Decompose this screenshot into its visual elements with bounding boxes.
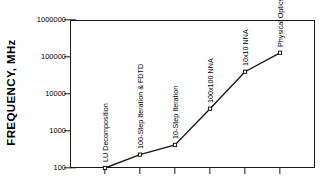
data-point-label: 100-Step Iteration & FDTD [137, 64, 144, 149]
data-point-label: 10-Step Iteration [172, 86, 179, 139]
y-tick-label: 10000 [45, 90, 66, 98]
data-point-label: 100x100 NNA [207, 58, 214, 103]
y-tick-label: 1000000 [37, 16, 66, 24]
frequency-chart-figure: FREQUENCY, MHz 1000000100000100001000100… [0, 0, 333, 185]
data-point-label: LU Decomposition [102, 103, 109, 162]
data-point-label: 10x10 NNA [242, 29, 249, 66]
data-point-label: Physical Optics [277, 0, 284, 47]
y-axis-title: FREQUENCY, MHz [0, 0, 22, 185]
y-tick-label: 100000 [41, 53, 66, 61]
